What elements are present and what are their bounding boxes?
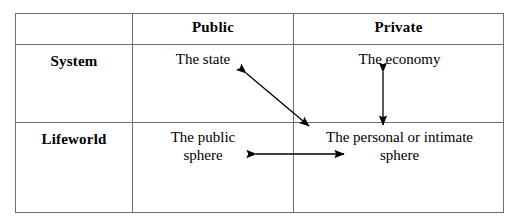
- matrix-table: Public Private System The sta: [15, 13, 504, 213]
- matrix-diagram: Public Private System The sta: [0, 0, 513, 223]
- corner-cell-empty: [16, 14, 133, 45]
- corner-cell-label: [16, 14, 132, 20]
- cell-lifeworld-private-text: The personal or intimate sphere: [294, 123, 503, 164]
- cell-lifeworld-public: The public sphere: [133, 123, 294, 213]
- row-header-system: System: [16, 45, 133, 123]
- cell-system-public: The state: [133, 45, 294, 123]
- cell-system-private-text: The economy: [294, 45, 503, 68]
- cell-lifeworld-private-line2: sphere: [380, 147, 419, 163]
- table-header-row: Public Private: [16, 14, 504, 45]
- cell-lifeworld-public-line1: The public: [171, 129, 236, 145]
- row-header-system-label: System: [16, 45, 132, 69]
- cell-system-private: The economy: [294, 45, 504, 123]
- column-header-private: Private: [294, 14, 504, 45]
- cell-lifeworld-public-text: The public sphere: [133, 123, 293, 164]
- cell-lifeworld-private: The personal or intimate sphere: [294, 123, 504, 213]
- column-header-private-label: Private: [294, 14, 503, 35]
- cell-lifeworld-private-line1: The personal or intimate: [326, 129, 473, 145]
- table-row-system: System The state The economy: [16, 45, 504, 123]
- row-header-lifeworld-label: Lifeworld: [16, 123, 132, 147]
- column-header-public: Public: [133, 14, 294, 45]
- row-header-lifeworld: Lifeworld: [16, 123, 133, 213]
- table-row-lifeworld: Lifeworld The public sphere The persona: [16, 123, 504, 213]
- cell-system-public-text: The state: [133, 45, 293, 68]
- cell-lifeworld-public-line2: sphere: [183, 147, 222, 163]
- column-header-public-label: Public: [133, 14, 293, 35]
